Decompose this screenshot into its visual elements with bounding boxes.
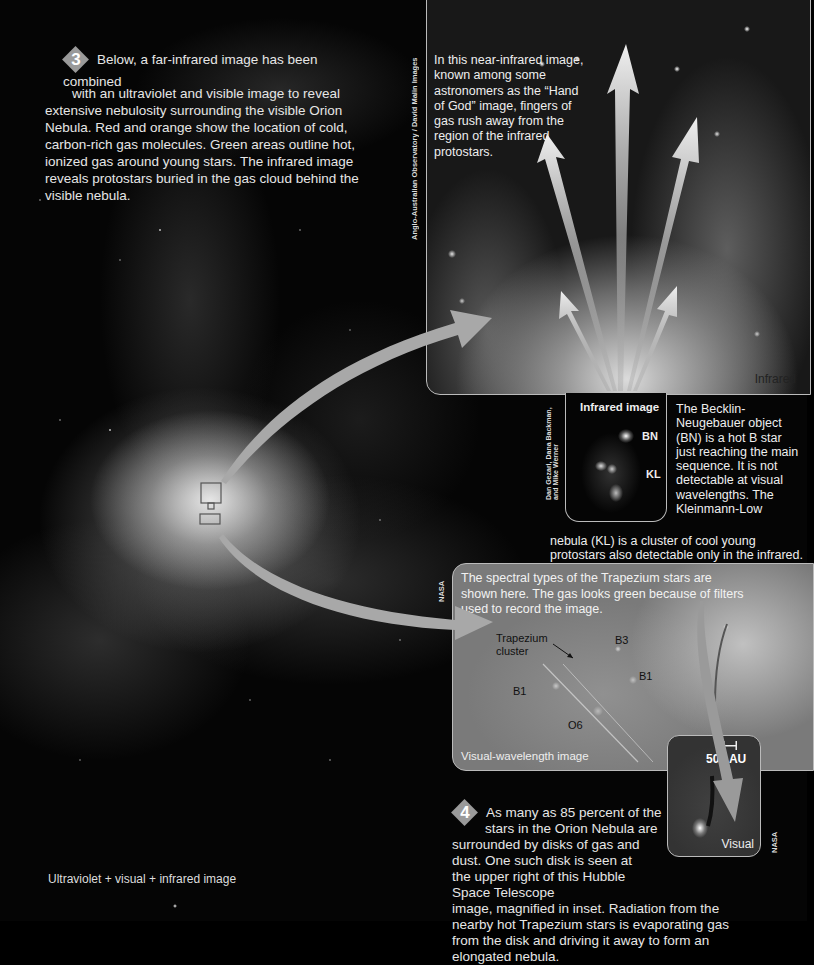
infrared-inset: Infrared image BN KL xyxy=(565,393,667,522)
step4-line2: stars in the Orion Nebula are xyxy=(452,821,792,837)
infrared-inset-title: Infrared image xyxy=(580,401,659,413)
visual-credit: NASA xyxy=(437,572,446,602)
label-o6: O6 xyxy=(568,719,583,731)
step4-body: surrounded by disks of gas and dust. One… xyxy=(452,837,642,901)
infrared-inset-credit: Dan Gezari, Dana Backman, and Mike Werne… xyxy=(545,400,569,500)
step3-text-block: 3Below, a far-infrared image has been co… xyxy=(45,47,375,204)
step4-badge: 4 xyxy=(452,800,478,826)
label-bn: BN xyxy=(642,430,658,442)
main-image-caption: Ultraviolet + visual + infrared image xyxy=(48,872,236,886)
infrared-panel: In this near-infrared image, known among… xyxy=(426,0,811,395)
label-kl: KL xyxy=(646,468,661,480)
step4-body-wide: image, magnified in inset. Radiation fro… xyxy=(452,901,752,965)
infrared-credit: Anglo-Australian Observatory / David Mal… xyxy=(410,40,419,240)
label-b1-left: B1 xyxy=(513,685,526,697)
step3-badge: 3 xyxy=(63,47,89,73)
scale-500au: 500 AU xyxy=(706,752,746,766)
label-b3: B3 xyxy=(615,634,628,646)
step4-line1: As many as 85 percent of the xyxy=(486,805,662,820)
label-b1-right: B1 xyxy=(639,670,652,682)
step3-line1: Below, a far-infrared image has been com… xyxy=(63,52,318,89)
step3-line2: with an ultraviolet and visible image to… xyxy=(45,85,375,102)
step3-body: extensive nebulosity surrounding the vis… xyxy=(45,102,375,204)
bn-description: The Becklin-Neugebauer object (BN) is a … xyxy=(676,402,801,516)
gas-finger-arrows xyxy=(427,0,810,394)
region-marker xyxy=(200,483,222,525)
visual-label: Visual-wavelength image xyxy=(461,750,589,762)
step4-text-block: 4As many as 85 percent of the stars in t… xyxy=(452,800,792,965)
kl-description: nebula (KL) is a cluster of cool young p… xyxy=(550,534,807,563)
